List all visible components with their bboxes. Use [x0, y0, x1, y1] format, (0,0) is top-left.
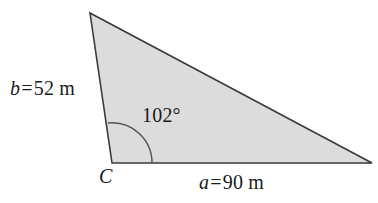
side-a-equals: =: [209, 171, 222, 193]
angle-measure-value: 102°: [142, 104, 181, 126]
angle-measure-label: 102°: [142, 105, 181, 125]
side-b-equals: =: [20, 77, 33, 99]
side-a-value: 90: [223, 171, 243, 193]
side-a-label: a=90 m: [199, 172, 264, 192]
side-b-label: b=52 m: [10, 78, 75, 98]
side-b-variable: b: [10, 77, 20, 99]
triangle-graphic: [0, 0, 378, 203]
triangle-figure: b=52 m a=90 m 102° C: [0, 0, 378, 203]
side-b-value: 52: [34, 77, 54, 99]
vertex-c-label: C: [99, 166, 113, 186]
triangle-shape: [90, 13, 372, 163]
side-a-unit: m: [248, 171, 264, 193]
side-a-variable: a: [199, 171, 209, 193]
side-b-unit: m: [59, 77, 75, 99]
